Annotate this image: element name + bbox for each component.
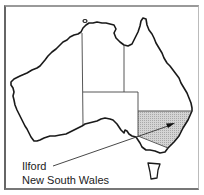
region-new-south-wales[interactable]: [138, 111, 192, 148]
state-label: New South Wales: [22, 174, 109, 186]
island-melville: [83, 20, 87, 23]
city-label: Ilford: [22, 160, 46, 172]
region-tasmania[interactable]: [148, 163, 160, 179]
